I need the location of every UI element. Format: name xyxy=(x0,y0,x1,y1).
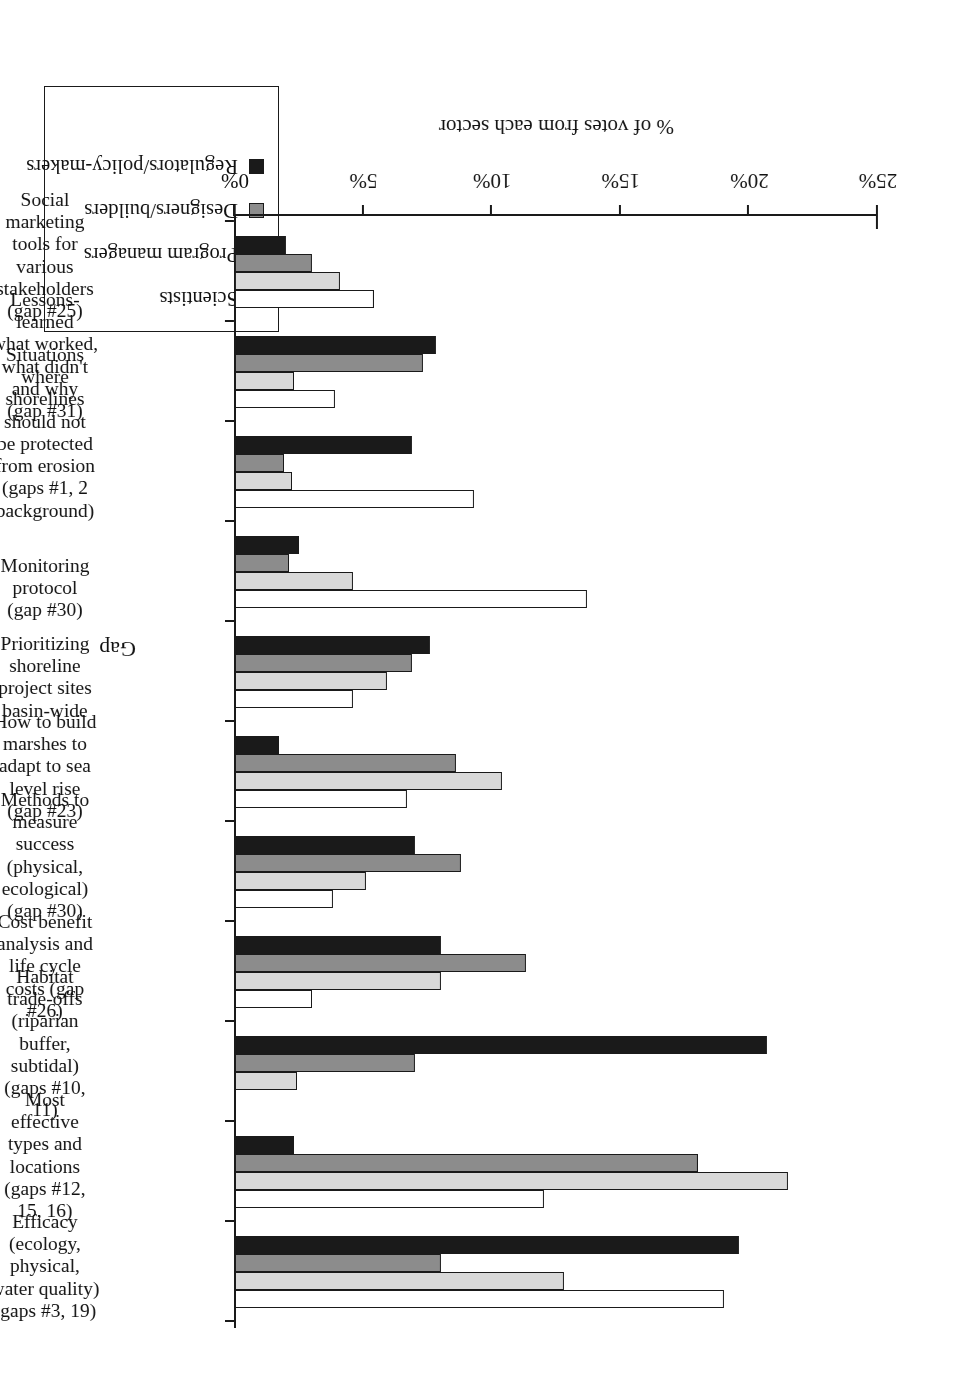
category-axis-label-line: 15, 16) xyxy=(0,1200,148,1222)
rotated-figure-container: ScientistsProgram managersDesigners/buil… xyxy=(0,0,953,1400)
category-axis-label-line: (gap #30) xyxy=(0,600,148,622)
category-axis-label: Methods tomeasuresuccess(physical,ecolog… xyxy=(0,822,148,922)
bar-designers-builders[interactable] xyxy=(235,1254,441,1272)
bar-program-managers[interactable] xyxy=(235,472,292,490)
bar-program-managers[interactable] xyxy=(235,1272,564,1290)
bar-designers-builders[interactable] xyxy=(235,854,461,872)
bar-regulators-policy-makers[interactable] xyxy=(235,836,415,854)
category-axis-label: Socialmarketingtools forvariousstakehold… xyxy=(0,222,148,322)
category-tick-mark xyxy=(225,220,234,222)
category-axis-label-line: buffer, xyxy=(0,1033,148,1055)
bar-program-managers[interactable] xyxy=(235,972,441,990)
category-axis-label-line: #26) xyxy=(0,1000,148,1022)
category-tick-mark xyxy=(225,1120,234,1122)
bar-designers-builders[interactable] xyxy=(235,1054,415,1072)
bar-scientists[interactable] xyxy=(235,290,374,308)
bar-group xyxy=(235,636,878,708)
bar-scientists[interactable] xyxy=(235,1190,544,1208)
value-tick-label: 5% xyxy=(329,168,399,193)
value-tick-mark xyxy=(233,205,235,215)
bar-designers-builders[interactable] xyxy=(235,1154,698,1172)
bar-regulators-policy-makers[interactable] xyxy=(235,636,430,654)
category-tick-mark xyxy=(225,720,234,722)
category-tick-mark xyxy=(225,420,234,422)
category-axis-label-line: basin-wide xyxy=(0,700,148,722)
category-axis-label-line: types and xyxy=(0,1133,148,1155)
bar-designers-builders[interactable] xyxy=(235,554,289,572)
category-axis-label: Efficacy(ecology,physical,water quality)… xyxy=(0,1222,148,1322)
bar-program-managers[interactable] xyxy=(235,272,340,290)
bar-regulators-policy-makers[interactable] xyxy=(235,1136,294,1154)
category-tick-mark xyxy=(225,820,234,822)
category-axis-label: Cost benefitanalysis andlife cyclecosts … xyxy=(0,922,148,1022)
bar-designers-builders[interactable] xyxy=(235,354,423,372)
category-axis-label-line: (gaps #1, 2 xyxy=(0,478,148,500)
category-axis-label-line: (ecology, xyxy=(0,1233,148,1255)
bar-group xyxy=(235,1136,878,1208)
bar-group xyxy=(235,436,878,508)
category-tick-mark xyxy=(225,320,234,322)
category-axis-label-line: success xyxy=(0,833,148,855)
plot-area: % of votes from each sector Gap 0%5%10%1… xyxy=(235,222,878,1322)
bar-scientists[interactable] xyxy=(235,990,312,1008)
bar-group xyxy=(235,936,878,1008)
bar-regulators-policy-makers[interactable] xyxy=(235,336,436,354)
bar-designers-builders[interactable] xyxy=(235,254,312,272)
category-axis-label-line: background) xyxy=(0,500,148,522)
bar-regulators-policy-makers[interactable] xyxy=(235,1236,739,1254)
category-axis-label-line: project sites xyxy=(0,678,148,700)
bar-regulators-policy-makers[interactable] xyxy=(235,736,279,754)
bar-scientists[interactable] xyxy=(235,1290,724,1308)
bar-regulators-policy-makers[interactable] xyxy=(235,536,299,554)
legend-item-label: Scientists xyxy=(159,289,238,310)
category-axis-label-line: stakeholders xyxy=(0,278,148,300)
category-axis-label-line: tools for xyxy=(0,233,148,255)
bar-group xyxy=(235,336,878,408)
bar-regulators-policy-makers[interactable] xyxy=(235,936,441,954)
category-axis-label-line: be protected xyxy=(0,433,148,455)
category-tick-mark xyxy=(225,1320,234,1322)
category-axis-label-line: (gap #25) xyxy=(0,300,148,322)
category-tick-mark xyxy=(225,520,234,522)
bar-designers-builders[interactable] xyxy=(235,654,412,672)
bar-designers-builders[interactable] xyxy=(235,754,456,772)
bar-scientists[interactable] xyxy=(235,690,353,708)
category-axis-label-line: marketing xyxy=(0,211,148,233)
bar-scientists[interactable] xyxy=(235,390,335,408)
category-axis-label-line: analysis and xyxy=(0,933,148,955)
bar-program-managers[interactable] xyxy=(235,1072,297,1090)
bar-scientists[interactable] xyxy=(235,490,474,508)
category-axis-label: Mosteffectivetypes andlocations(gaps #12… xyxy=(0,1122,148,1222)
value-tick-label: 10% xyxy=(457,168,527,193)
value-tick-mark xyxy=(490,205,492,215)
bar-scientists[interactable] xyxy=(235,790,407,808)
bar-program-managers[interactable] xyxy=(235,872,366,890)
bar-regulators-policy-makers[interactable] xyxy=(235,436,412,454)
bar-designers-builders[interactable] xyxy=(235,954,526,972)
category-tick-mark xyxy=(225,1220,234,1222)
category-axis-label-line: life cycle xyxy=(0,955,148,977)
bar-designers-builders[interactable] xyxy=(235,454,284,472)
bar-group xyxy=(235,236,878,308)
category-tick-mark xyxy=(225,620,234,622)
bar-program-managers[interactable] xyxy=(235,772,502,790)
bar-regulators-policy-makers[interactable] xyxy=(235,1036,767,1054)
bar-program-managers[interactable] xyxy=(235,372,294,390)
category-axis-label: Habitattrade-offs(riparianbuffer,subtida… xyxy=(0,1022,148,1122)
bar-program-managers[interactable] xyxy=(235,1172,788,1190)
bar-regulators-policy-makers[interactable] xyxy=(235,236,286,254)
bar-group xyxy=(235,1036,878,1108)
category-axis-label-line: costs (gap xyxy=(0,978,148,1000)
bar-scientists[interactable] xyxy=(235,890,333,908)
bar-program-managers[interactable] xyxy=(235,672,387,690)
category-tick-mark xyxy=(225,1020,234,1022)
bar-program-managers[interactable] xyxy=(235,572,353,590)
category-axis-label: Lessons-learnedwhat worked,what didn'tan… xyxy=(0,322,148,422)
category-axis-label-line: water quality) xyxy=(0,1278,148,1300)
bar-scientists[interactable] xyxy=(235,590,587,608)
category-axis-label-line: protocol xyxy=(0,578,148,600)
value-tick-label: 15% xyxy=(586,168,656,193)
category-axis-label-line: (gaps #12, xyxy=(0,1178,148,1200)
category-axis-label-line: Monitoring xyxy=(0,555,148,577)
category-axis-label-line: (gap #31) xyxy=(0,400,148,422)
